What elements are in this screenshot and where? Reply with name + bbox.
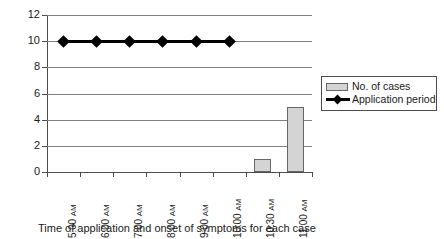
bar bbox=[287, 107, 304, 172]
x-axis-tick bbox=[312, 172, 313, 177]
diamond-marker-icon bbox=[190, 35, 203, 48]
gridline bbox=[47, 146, 312, 147]
bar bbox=[254, 159, 271, 172]
gridline bbox=[47, 94, 312, 95]
line-diamond-swatch-icon bbox=[326, 95, 350, 104]
diamond-marker-icon bbox=[57, 35, 70, 48]
y-axis-tick-label: 0 bbox=[2, 166, 40, 177]
x-axis-tick bbox=[146, 172, 147, 177]
chart-figure: 024681012 5:00 AM6:00 AM7:00 AM8:00 AM9:… bbox=[0, 0, 444, 239]
x-axis-tick bbox=[113, 172, 114, 177]
plot-area bbox=[47, 15, 312, 172]
x-axis-tick bbox=[279, 172, 280, 177]
legend-item-application-period: Application period bbox=[326, 93, 432, 106]
x-axis-tick bbox=[246, 172, 247, 177]
legend-item-label: Application period bbox=[352, 94, 435, 105]
diamond-marker-icon bbox=[223, 35, 236, 48]
y-axis-tick-label: 2 bbox=[2, 140, 40, 151]
x-axis-tick bbox=[213, 172, 214, 177]
legend-item-cases: No. of cases bbox=[326, 80, 432, 93]
x-axis-tick bbox=[80, 172, 81, 177]
bar-swatch-icon bbox=[326, 83, 348, 91]
y-axis-tick-label: 6 bbox=[2, 88, 40, 99]
x-axis-caption: Time of application and onset of symptom… bbox=[38, 222, 338, 235]
diamond-marker-icon bbox=[157, 35, 170, 48]
gridline bbox=[47, 67, 312, 68]
x-axis-tick bbox=[47, 172, 48, 177]
legend-item-label: No. of cases bbox=[352, 81, 410, 92]
y-axis-tick-label: 10 bbox=[2, 35, 40, 46]
chart-legend: No. of cases Application period bbox=[321, 76, 437, 111]
diamond-marker-icon bbox=[123, 35, 136, 48]
y-axis-tick-label: 4 bbox=[2, 114, 40, 125]
gridline bbox=[47, 15, 312, 16]
diamond-marker-icon bbox=[90, 35, 103, 48]
y-axis-tick-label: 8 bbox=[2, 61, 40, 72]
gridline bbox=[47, 120, 312, 121]
x-axis-tick bbox=[180, 172, 181, 177]
y-axis-tick-label: 12 bbox=[2, 9, 40, 20]
